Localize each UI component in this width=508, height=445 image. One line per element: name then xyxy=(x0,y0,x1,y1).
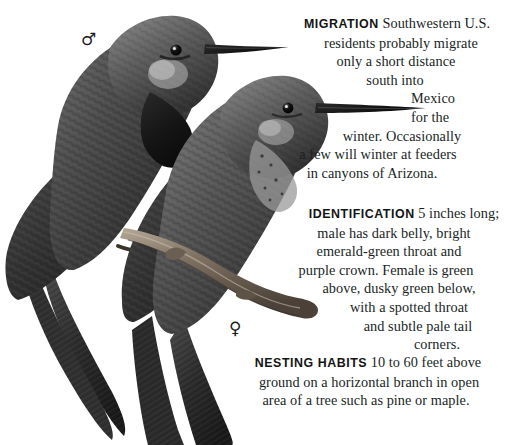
text-layer: MIGRATION Southwestern U.S. residents pr… xyxy=(0,0,508,445)
identification-line-3: emerald-green throat and xyxy=(270,242,508,261)
migration-line-1: Southwestern U.S. xyxy=(382,15,490,31)
identification-line-5: above, dusky green below, xyxy=(290,279,508,298)
migration-line-9: in canyons of Arizona. xyxy=(236,164,508,183)
migration-line-8: a few will winter at feeders xyxy=(248,145,508,164)
identification-line-7: and subtle pale tail xyxy=(328,317,508,336)
migration-line-4: south into xyxy=(282,71,508,90)
migration-line-5: Mexico xyxy=(358,89,508,108)
identification-line-4: purple crown. Female is green xyxy=(264,261,508,280)
identification-line-8: corners. xyxy=(366,335,508,354)
field-guide-page: ♂ ♀ MIGRATION Southwestern U.S. resident… xyxy=(0,0,508,445)
identification-text-block: IDENTIFICATION 5 inches long; male has d… xyxy=(232,204,508,354)
identification-line-2: male has dark belly, bright xyxy=(280,224,508,243)
nesting-line-1: 10 to 60 feet above xyxy=(371,354,482,370)
migration-line-6: for the xyxy=(352,108,508,127)
nesting-habits-text-block: NESTING HABITS 10 to 60 feet above groun… xyxy=(224,353,508,410)
nesting-lead-label: NESTING HABITS xyxy=(255,356,367,370)
migration-text-block: MIGRATION Southwestern U.S. residents pr… xyxy=(232,14,508,182)
migration-line-3: only a short distance xyxy=(284,52,508,71)
female-symbol-icon: ♀ xyxy=(229,320,241,337)
identification-lead-label: IDENTIFICATION xyxy=(309,207,415,221)
migration-lead-label: MIGRATION xyxy=(304,17,379,31)
male-symbol-icon: ♂ xyxy=(81,31,96,48)
nesting-line-3: area of a tree such as pine or maple. xyxy=(224,391,508,410)
migration-line-2: residents probably migrate xyxy=(294,34,508,53)
identification-line-6: with a spotted throat xyxy=(310,298,508,317)
nesting-line-2: ground on a horizontal branch in open xyxy=(230,373,508,392)
migration-line-7: winter. Occasionally xyxy=(296,127,508,146)
identification-line-1: 5 inches long; xyxy=(418,205,499,221)
